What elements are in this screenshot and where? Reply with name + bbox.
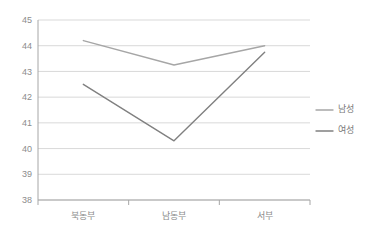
y-tick-label: 41 [22,118,32,128]
chart-background [0,0,377,242]
y-tick-label: 40 [22,144,32,154]
y-tick-label: 39 [22,169,32,179]
y-tick-label: 43 [22,67,32,77]
y-tick-label: 45 [22,15,32,25]
y-tick-label: 44 [22,41,32,51]
legend-label: 여성 [338,124,354,135]
x-tick-label: 북동부 [71,211,95,221]
chart-canvas: 3839404142434445 북동부남동부서부 남성여성 [0,0,377,242]
legend-label: 남성 [338,104,354,114]
y-tick-label: 42 [22,92,32,102]
x-tick-label: 남동부 [162,211,186,221]
y-tick-label: 38 [22,195,32,205]
x-tick-label: 서부 [257,211,273,221]
line-chart: 3839404142434445 북동부남동부서부 남성여성 [0,0,377,242]
